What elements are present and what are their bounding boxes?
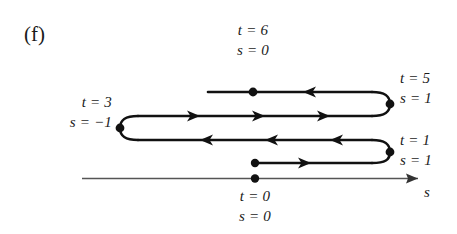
annotation-t5-position: s = 1 — [400, 88, 432, 108]
s-axis — [82, 174, 418, 184]
dot-t0 — [251, 174, 259, 182]
panel-label: (f) — [24, 22, 45, 47]
annotation-t0-time: t = 0 — [239, 186, 271, 206]
annotation-t0: t = 0 s = 0 — [239, 186, 271, 227]
trajectory-canvas — [0, 0, 457, 234]
annotation-t3: t = 3 s = −1 — [70, 92, 112, 133]
dot-t3 — [116, 124, 125, 133]
trajectory-path — [120, 92, 390, 163]
annotation-t0-position: s = 0 — [239, 206, 271, 226]
dot-t6 — [249, 88, 258, 97]
annotation-t1: t = 1 s = 1 — [400, 130, 432, 171]
annotation-t5-time: t = 5 — [400, 68, 432, 88]
annotation-t6-position: s = 0 — [237, 40, 269, 60]
annotation-t6-time: t = 6 — [237, 20, 269, 40]
annotation-t5: t = 5 s = 1 — [400, 68, 432, 109]
annotation-t1-time: t = 1 — [400, 130, 432, 150]
annotation-t6: t = 6 s = 0 — [237, 20, 269, 61]
direction-arrowheads — [187, 86, 343, 168]
annotation-t1-position: s = 1 — [400, 150, 432, 170]
dot-t5 — [386, 100, 395, 109]
s-axis-label: s — [424, 184, 430, 201]
annotation-t3-position: s = −1 — [70, 112, 112, 132]
event-dots — [116, 88, 395, 183]
motion-diagram-figure: (f) t = 6 s = 0 t = 5 s = 1 t = 3 s = −1… — [0, 0, 457, 234]
dot-t1 — [386, 148, 395, 157]
annotation-t3-time: t = 3 — [70, 92, 112, 112]
dot-start-trajectory — [251, 159, 259, 167]
